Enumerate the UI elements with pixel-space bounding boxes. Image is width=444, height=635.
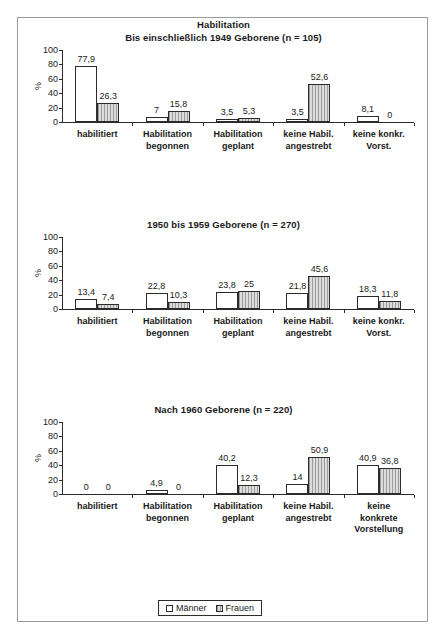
x-tick-mark bbox=[344, 123, 345, 126]
y-tick-label: 60 bbox=[48, 446, 58, 455]
chart-title-1: HabilitationBis einschließlich 1949 Gebo… bbox=[18, 18, 429, 44]
bar-value-label: 3,5 bbox=[221, 108, 234, 117]
x-tick-mark bbox=[273, 310, 274, 313]
bar-maenner bbox=[286, 484, 308, 494]
bar-maenner bbox=[146, 117, 168, 122]
bar-value-label: 13,4 bbox=[77, 288, 95, 297]
figure-frame: HabilitationBis einschließlich 1949 Gebo… bbox=[17, 17, 428, 622]
x-tick-mark bbox=[273, 123, 274, 126]
x-tick-mark bbox=[203, 123, 204, 126]
bar-maenner bbox=[286, 293, 308, 309]
bar-maenner bbox=[146, 490, 168, 494]
y-axis-label: % bbox=[33, 269, 43, 277]
bar-value-label: 12,3 bbox=[240, 474, 258, 483]
y-tick-mark bbox=[59, 93, 62, 94]
y-tick-label: 100 bbox=[43, 418, 58, 427]
bar-value-label: 14 bbox=[292, 473, 302, 482]
x-axis-line bbox=[62, 122, 414, 123]
bar-frauen bbox=[238, 118, 260, 122]
bar-value-label: 15,8 bbox=[170, 100, 188, 109]
bar-value-label: 7,4 bbox=[102, 293, 115, 302]
chart-subtitle: Bis einschließlich 1949 Geborene (n = 10… bbox=[18, 31, 429, 44]
y-axis-label: % bbox=[33, 454, 43, 462]
y-tick-mark bbox=[59, 295, 62, 296]
y-tick-label: 40 bbox=[48, 276, 58, 285]
bar-frauen bbox=[308, 276, 330, 309]
bar-frauen bbox=[238, 291, 260, 309]
y-tick-label: 100 bbox=[43, 233, 58, 242]
bar-value-label: 8,1 bbox=[362, 105, 375, 114]
x-tick-mark bbox=[132, 495, 133, 498]
y-tick-mark bbox=[59, 422, 62, 423]
y-tick-label: 20 bbox=[48, 103, 58, 112]
y-tick-mark bbox=[59, 50, 62, 51]
bar-maenner bbox=[146, 293, 168, 309]
chart-subtitle: 1950 bis 1959 Geborene (n = 270) bbox=[18, 218, 429, 231]
chart-subtitle: Nach 1960 Geborene (n = 220) bbox=[18, 403, 429, 416]
y-axis-line bbox=[62, 237, 63, 309]
y-tick-label: 80 bbox=[48, 60, 58, 69]
bar-maenner bbox=[286, 119, 308, 122]
x-tick-mark bbox=[414, 310, 415, 313]
bar-value-label: 11,8 bbox=[381, 290, 398, 299]
y-tick-mark bbox=[59, 108, 62, 109]
y-tick-label: 60 bbox=[48, 261, 58, 270]
y-tick-mark bbox=[59, 494, 62, 495]
bar-value-label: 50,9 bbox=[311, 446, 329, 455]
category-label: keine konkr. Vorst. bbox=[336, 316, 422, 339]
y-tick-mark bbox=[59, 280, 62, 281]
y-tick-mark bbox=[59, 465, 62, 466]
bar-frauen bbox=[379, 301, 401, 309]
bar-value-label: 0 bbox=[84, 483, 89, 492]
bar-value-label: 22,8 bbox=[148, 282, 166, 291]
bar-value-label: 0 bbox=[106, 483, 111, 492]
y-tick-label: 0 bbox=[53, 118, 58, 127]
x-axis-line bbox=[62, 494, 414, 495]
bar-frauen bbox=[379, 468, 401, 494]
x-tick-mark bbox=[344, 310, 345, 313]
bar-value-label: 25 bbox=[244, 280, 254, 289]
chart-title-3: Nach 1960 Geborene (n = 220) bbox=[18, 403, 429, 416]
y-tick-label: 80 bbox=[48, 247, 58, 256]
legend-item: Männer bbox=[166, 603, 207, 613]
bar-value-label: 4,9 bbox=[150, 479, 163, 488]
x-tick-mark bbox=[132, 310, 133, 313]
bar-frauen bbox=[168, 111, 190, 122]
y-tick-label: 0 bbox=[53, 305, 58, 314]
plot-area-3: %02040608010000habilitiert4,90Habilitati… bbox=[18, 422, 429, 540]
chart-block-3: Nach 1960 Geborene (n = 220)%02040608010… bbox=[18, 403, 429, 540]
bar-maenner bbox=[216, 465, 238, 494]
legend-swatch-frauen-icon bbox=[216, 605, 223, 612]
bar-frauen bbox=[308, 84, 330, 122]
x-tick-mark bbox=[132, 123, 133, 126]
y-axis-line bbox=[62, 50, 63, 122]
chart-title-main: Habilitation bbox=[18, 18, 429, 31]
bar-value-label: 26,3 bbox=[99, 92, 117, 101]
bar-maenner bbox=[216, 292, 238, 309]
bar-value-label: 23,8 bbox=[218, 281, 236, 290]
bar-frauen bbox=[308, 457, 330, 494]
x-tick-mark bbox=[203, 495, 204, 498]
bar-value-label: 0 bbox=[176, 483, 181, 492]
bar-value-label: 77,9 bbox=[77, 55, 95, 64]
y-tick-label: 20 bbox=[48, 290, 58, 299]
legend-swatch-maenner-icon bbox=[166, 605, 173, 612]
x-tick-mark bbox=[344, 495, 345, 498]
y-axis-label: % bbox=[33, 82, 43, 90]
chart-legend: MännerFrauen bbox=[158, 600, 262, 616]
y-tick-mark bbox=[59, 237, 62, 238]
y-tick-label: 40 bbox=[48, 89, 58, 98]
y-tick-mark bbox=[59, 480, 62, 481]
chart-title-2: 1950 bis 1959 Geborene (n = 270) bbox=[18, 218, 429, 231]
y-tick-mark bbox=[59, 436, 62, 437]
chart-block-1: HabilitationBis einschließlich 1949 Gebo… bbox=[18, 18, 429, 168]
bar-value-label: 10,3 bbox=[170, 291, 188, 300]
bar-maenner bbox=[357, 296, 379, 309]
bar-maenner bbox=[75, 299, 97, 309]
y-tick-label: 80 bbox=[48, 432, 58, 441]
y-tick-label: 0 bbox=[53, 490, 58, 499]
bar-value-label: 21,8 bbox=[289, 282, 307, 291]
bar-frauen bbox=[238, 485, 260, 494]
bar-value-label: 40,9 bbox=[359, 454, 377, 463]
plot-area-1: %02040608010077,926,3habilitiert715,8Hab… bbox=[18, 50, 429, 168]
